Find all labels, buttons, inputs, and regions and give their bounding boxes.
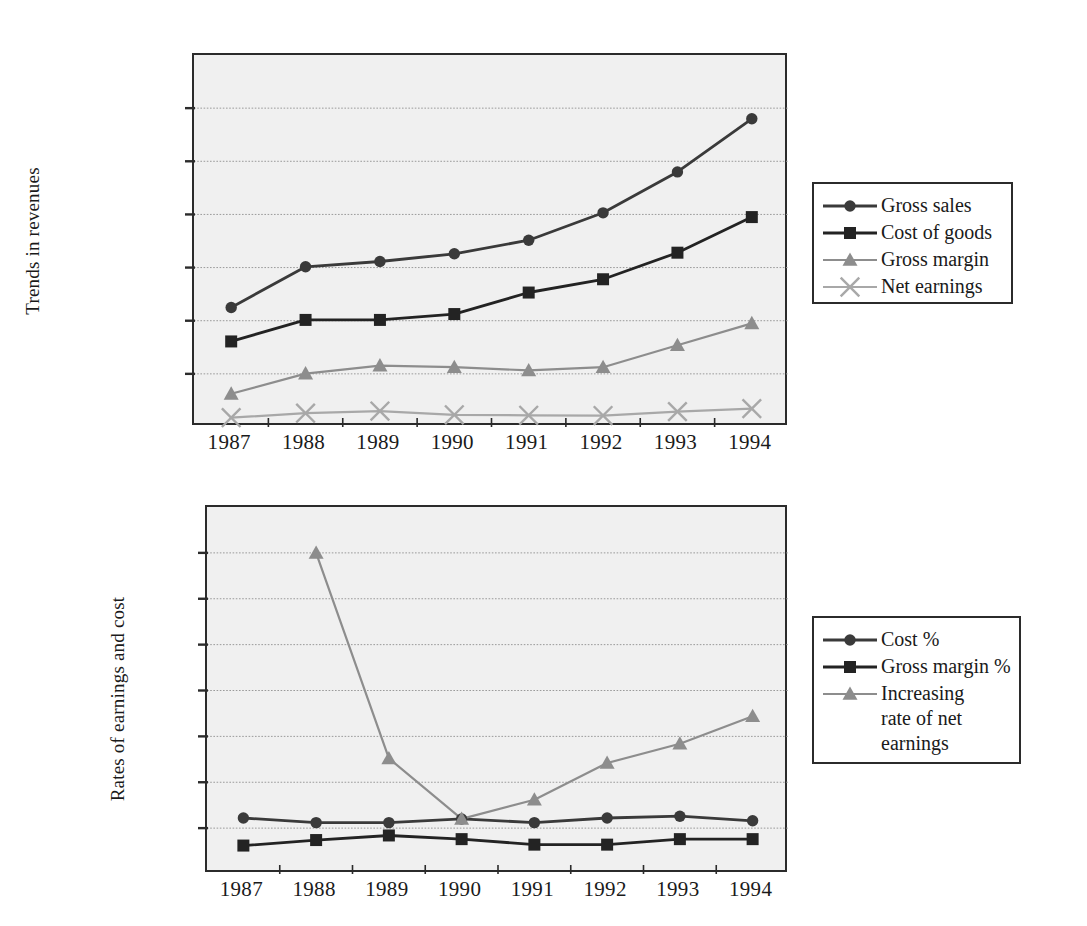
data-point-square <box>597 273 609 285</box>
data-point-square <box>383 829 395 841</box>
x-tick-label: 1987 <box>208 430 251 455</box>
data-point-circle <box>597 207 608 218</box>
legend-label: Net earnings <box>879 274 983 299</box>
data-point-square <box>225 335 237 347</box>
data-point-square <box>747 833 759 845</box>
series-line <box>316 553 752 819</box>
revenues-y-tick-labels: 02,000,0004,000,0006,000,0008,000,00010,… <box>0 0 185 470</box>
legend-key-square-icon <box>821 220 879 246</box>
data-point-square <box>300 314 312 326</box>
legend-label: Gross margin <box>879 247 989 272</box>
legend-label: Cost of goods <box>879 220 992 245</box>
rates-plot-area <box>205 505 787 872</box>
legend-item: Gross sales <box>821 193 1004 219</box>
legend-key-triangle-icon <box>821 247 879 273</box>
x-tick-label: 1990 <box>431 430 474 455</box>
legend-label: Increasing rate of net earnings <box>879 681 964 756</box>
legend-key-circle-icon <box>821 627 879 653</box>
legend-key-circle-icon <box>821 193 879 219</box>
data-point-circle <box>449 248 460 259</box>
legend-label: Cost % <box>879 627 939 652</box>
data-point-circle <box>529 817 540 828</box>
data-point-circle <box>523 235 534 246</box>
revenues-x-tick-labels: 19871988198919901991199219931994 <box>0 430 1087 464</box>
revenues-plot-area <box>192 53 787 425</box>
x-tick-label: 1992 <box>579 430 622 455</box>
data-point-square <box>844 227 856 239</box>
legend-key-square-icon <box>821 654 879 680</box>
revenues-legend: Gross salesCost of goodsGross marginNet … <box>812 182 1013 304</box>
data-point-circle <box>747 815 758 826</box>
x-tick-label: 1990 <box>438 877 481 902</box>
data-point-square <box>601 839 613 851</box>
series-line <box>231 119 752 308</box>
data-point-circle <box>601 812 612 823</box>
x-tick-label: 1993 <box>656 877 699 902</box>
x-tick-label: 1989 <box>365 877 408 902</box>
rates-legend: Cost %Gross margin %Increasing rate of n… <box>812 616 1021 764</box>
data-point-circle <box>674 810 685 821</box>
data-point-circle <box>300 261 311 272</box>
x-tick-label: 1994 <box>729 877 772 902</box>
legend-item: Net earnings <box>821 274 1004 300</box>
data-point-circle <box>310 817 321 828</box>
data-point-square <box>456 833 468 845</box>
data-point-circle <box>383 817 394 828</box>
legend-item: Cost of goods <box>821 220 1004 246</box>
data-point-circle <box>225 302 236 313</box>
data-point-square <box>674 833 686 845</box>
rates-chart: Rates of earnings and cost 00.511.522.53… <box>0 470 1087 926</box>
data-point-triangle <box>744 316 759 329</box>
data-point-triangle <box>309 545 324 558</box>
legend-item: Cost % <box>821 627 1012 653</box>
data-point-circle <box>844 634 855 645</box>
data-point-circle <box>672 166 683 177</box>
data-point-square <box>374 314 386 326</box>
data-point-circle <box>844 200 855 211</box>
data-point-square <box>671 247 683 259</box>
x-tick-label: 1988 <box>282 430 325 455</box>
x-tick-label: 1994 <box>728 430 771 455</box>
data-point-square <box>528 839 540 851</box>
rates-y-tick-labels: 00.511.522.533.54 <box>0 470 198 926</box>
legend-label: Gross margin % <box>879 654 1011 679</box>
legend-item: Gross margin <box>821 247 1004 273</box>
rates-x-tick-labels: 19871988198919901991199219931994 <box>0 877 1087 911</box>
data-point-square <box>448 308 460 320</box>
x-tick-label: 1993 <box>654 430 697 455</box>
data-point-triangle <box>745 709 760 722</box>
data-point-circle <box>238 812 249 823</box>
legend-item: Gross margin % <box>821 654 1012 680</box>
data-point-circle <box>374 256 385 267</box>
data-point-square <box>237 840 249 852</box>
data-point-triangle <box>381 751 396 764</box>
legend-key-cross-icon <box>821 274 879 300</box>
legend-item: Increasing rate of net earnings <box>821 681 1012 756</box>
x-tick-label: 1992 <box>584 877 627 902</box>
data-point-triangle <box>527 792 542 805</box>
series-line <box>231 323 752 393</box>
legend-key-triangle-icon <box>821 681 879 707</box>
data-point-square <box>844 661 856 673</box>
x-tick-label: 1989 <box>356 430 399 455</box>
x-tick-label: 1987 <box>220 877 263 902</box>
legend-label: Gross sales <box>879 193 972 218</box>
data-point-square <box>523 287 535 299</box>
x-tick-label: 1991 <box>505 430 548 455</box>
x-tick-label: 1988 <box>293 877 336 902</box>
data-point-square <box>310 834 322 846</box>
revenues-chart: Trends in revenues 02,000,0004,000,0006,… <box>0 0 1087 470</box>
data-point-square <box>746 211 758 223</box>
data-point-circle <box>746 113 757 124</box>
x-tick-label: 1991 <box>511 877 554 902</box>
